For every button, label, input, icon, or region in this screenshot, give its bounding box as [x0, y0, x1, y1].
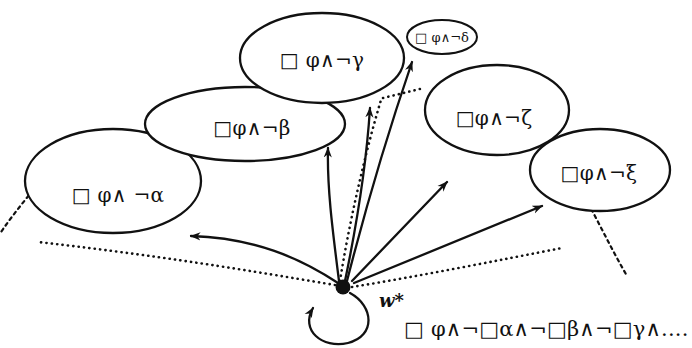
cluster-label-zeta: □φ∧¬ζ — [456, 106, 533, 130]
center-world-label: w* — [379, 290, 404, 311]
edge-to-xi — [354, 206, 542, 283]
edge-dotted-right — [352, 248, 562, 287]
continuation-right-dashed — [588, 203, 627, 276]
center-world-node[interactable] — [336, 280, 351, 295]
kripke-model-diagram: □ φ∧ ¬α □φ∧¬β □ φ∧¬γ □ φ∧¬δ □φ∧¬ζ □φ∧¬ξ … — [0, 0, 692, 348]
self-loop-edge — [309, 293, 368, 344]
edge-to-gamma — [345, 108, 370, 281]
cluster-label-xi: □φ∧¬ξ — [561, 161, 638, 185]
edge-dotted-left — [38, 242, 335, 285]
center-world-formula: □ φ∧¬□α∧¬□β∧¬□γ∧.... — [404, 317, 689, 341]
diagram-canvas: □ φ∧ ¬α □φ∧¬β □ φ∧¬γ □ φ∧¬δ □φ∧¬ζ □φ∧¬ξ … — [0, 0, 692, 348]
edge-to-alpha — [191, 236, 338, 283]
cluster-label-delta: □ φ∧¬δ — [415, 30, 469, 45]
edge-to-zeta — [352, 182, 447, 281]
cluster-label-gamma: □ φ∧¬γ — [280, 48, 364, 72]
edge-to-beta — [328, 148, 339, 281]
cluster-label-alpha: □ φ∧ ¬α — [72, 183, 165, 207]
cluster-label-beta: □φ∧¬β — [213, 116, 290, 140]
